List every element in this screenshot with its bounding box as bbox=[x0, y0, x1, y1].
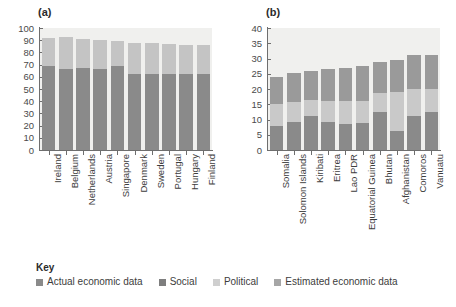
y-tick-label: 30 bbox=[0, 109, 34, 118]
x-tick-mark bbox=[311, 151, 312, 155]
bar-segment bbox=[111, 41, 125, 65]
bar bbox=[270, 77, 284, 150]
bar-segment bbox=[111, 66, 125, 150]
legend: Key Actual economic dataSocialPoliticalE… bbox=[36, 262, 456, 287]
bar bbox=[145, 43, 159, 150]
bar bbox=[128, 43, 142, 150]
x-tick-mark bbox=[117, 151, 118, 155]
x-axis-label: Bhutan bbox=[384, 154, 394, 184]
x-tick-mark bbox=[277, 151, 278, 155]
bar-segment bbox=[373, 93, 387, 113]
x-tick-mark bbox=[345, 151, 346, 155]
y-tick-label: 0 bbox=[0, 146, 34, 155]
bar bbox=[390, 60, 404, 150]
bar-segment bbox=[270, 77, 284, 104]
y-axis-ticks-b: 4035302520151050 bbox=[228, 0, 268, 258]
bar bbox=[93, 40, 107, 150]
x-tick-mark bbox=[397, 151, 398, 155]
bar-segment bbox=[162, 44, 176, 75]
bar-segment bbox=[270, 104, 284, 127]
y-tick-label: 5 bbox=[228, 130, 262, 139]
bar-segment bbox=[287, 73, 301, 102]
bar bbox=[356, 66, 370, 150]
x-tick-mark bbox=[328, 151, 329, 155]
bar-segment bbox=[287, 102, 301, 122]
bar bbox=[42, 38, 56, 150]
bar-segment bbox=[321, 122, 335, 150]
y-tick-label: 15 bbox=[228, 100, 262, 109]
x-tick-mark bbox=[431, 151, 432, 155]
panel-b-label: (b) bbox=[266, 6, 280, 18]
bar bbox=[197, 45, 211, 150]
x-axis-label: Comoros bbox=[418, 154, 428, 193]
bar-segment bbox=[425, 112, 439, 150]
bar-segment bbox=[304, 100, 318, 116]
legend-label: Social bbox=[170, 277, 197, 287]
bar-segment bbox=[304, 71, 318, 101]
y-tick-label: 10 bbox=[0, 133, 34, 142]
bar-segment bbox=[425, 55, 439, 89]
y-tick-label: 30 bbox=[228, 54, 262, 63]
legend-item: Political bbox=[213, 277, 258, 287]
bar bbox=[425, 55, 439, 150]
bar-segment bbox=[356, 101, 370, 123]
x-tick-mark bbox=[186, 151, 187, 155]
x-axis-label: Finland bbox=[207, 154, 217, 185]
bar-segment bbox=[128, 43, 142, 75]
x-axis-label: Eritrea bbox=[332, 154, 342, 182]
bar bbox=[304, 71, 318, 150]
bar-segment bbox=[373, 112, 387, 150]
bar-segment bbox=[425, 89, 439, 112]
x-tick-mark bbox=[135, 151, 136, 155]
bar-segment bbox=[93, 69, 107, 150]
bar bbox=[59, 37, 73, 150]
bar-segment bbox=[390, 60, 404, 92]
x-axis-label: Lao PDR bbox=[349, 154, 359, 193]
panel-a-label: (a) bbox=[38, 6, 51, 18]
y-tick-label: 40 bbox=[0, 97, 34, 106]
x-tick-mark bbox=[294, 151, 295, 155]
y-tick-label: 90 bbox=[0, 36, 34, 45]
legend-label: Actual economic data bbox=[47, 277, 143, 287]
legend-items: Actual economic dataSocialPoliticalEstim… bbox=[36, 277, 456, 287]
bar-segment bbox=[407, 116, 421, 150]
bar-segment bbox=[304, 116, 318, 150]
x-tick-mark bbox=[66, 151, 67, 155]
x-axis-label: Ireland bbox=[53, 154, 63, 183]
x-axis-label: Sweden bbox=[156, 154, 166, 188]
bar-segment bbox=[128, 74, 142, 150]
bar bbox=[339, 68, 353, 150]
bar-segment bbox=[162, 74, 176, 150]
x-tick-mark bbox=[152, 151, 153, 155]
x-axis-label: Equatorial Guinea bbox=[367, 154, 377, 230]
bar bbox=[76, 39, 90, 150]
y-tick-label: 70 bbox=[0, 60, 34, 69]
bar-segment bbox=[42, 66, 56, 150]
bar-segment bbox=[93, 40, 107, 70]
x-tick-mark bbox=[49, 151, 50, 155]
chart-panel-b: (b) 4035302520151050 SomaliaSolomon Isla… bbox=[228, 0, 456, 258]
bar-segment bbox=[179, 45, 193, 74]
legend-swatch-icon bbox=[159, 279, 166, 286]
legend-item: Actual economic data bbox=[36, 277, 143, 287]
bar-segment bbox=[270, 126, 284, 150]
y-tick-label: 20 bbox=[0, 121, 34, 130]
bar-segment bbox=[76, 39, 90, 68]
y-tick-label: 80 bbox=[0, 48, 34, 57]
y-axis-ticks-a: 1009080706050403020100 bbox=[0, 0, 40, 258]
y-tick-label: 0 bbox=[228, 146, 262, 155]
legend-label: Estimated economic data bbox=[285, 277, 397, 287]
bar-segment bbox=[197, 45, 211, 74]
y-tick-mark bbox=[267, 150, 271, 151]
bar bbox=[162, 44, 176, 150]
bar-segment bbox=[390, 92, 404, 131]
x-axis-labels-a: IrelandBelgiumNetherlandsAustriaSingapor… bbox=[40, 154, 212, 254]
y-tick-label: 10 bbox=[228, 115, 262, 124]
bar-segment bbox=[179, 74, 193, 150]
bar-segment bbox=[339, 68, 353, 101]
x-tick-mark bbox=[203, 151, 204, 155]
x-tick-mark bbox=[380, 151, 381, 155]
bar-segment bbox=[407, 55, 421, 89]
x-axis-label: Afghanistan bbox=[401, 154, 411, 204]
bar-segment bbox=[339, 101, 353, 124]
